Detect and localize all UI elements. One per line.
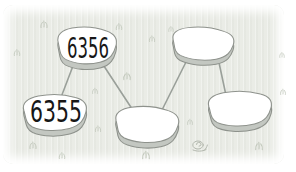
grass-tuft-icon (59, 153, 65, 159)
grass-tuft-icon (143, 151, 150, 158)
stone-blank-bottom-middle[interactable] (115, 106, 179, 149)
grass-tuft-icon (95, 126, 100, 132)
grass-tuft-icon (116, 24, 122, 30)
grass-tuft-icon (256, 142, 263, 149)
grass-tuft-icon (30, 142, 36, 149)
grass-tuft-icon (14, 50, 20, 56)
snail-icon (193, 141, 208, 151)
stone-surface (115, 106, 179, 143)
stone-surface (172, 26, 234, 61)
stones-diagram: 6356 6355 (0, 0, 296, 172)
stone-label: 6355 (30, 94, 82, 129)
grass-tuft-icon (187, 119, 192, 124)
grass-tuft-icon (92, 88, 97, 93)
grass-tuft-icon (149, 36, 154, 42)
grass-tuft-icon (280, 53, 285, 58)
stone-6356: 6356 (58, 27, 117, 69)
grass-tuft-icon (41, 21, 47, 28)
stone-6355: 6355 (23, 93, 87, 137)
grass-tuft-icon (124, 73, 131, 80)
stone-blank-bottom-right[interactable] (208, 90, 272, 132)
stone-blank-top-right[interactable] (172, 26, 234, 66)
grass-tuft-icon (169, 27, 174, 32)
worksheet-illustration: 6356 6355 (0, 0, 296, 172)
grass-tuft-icon (280, 89, 285, 94)
stone-label: 6356 (67, 32, 109, 65)
